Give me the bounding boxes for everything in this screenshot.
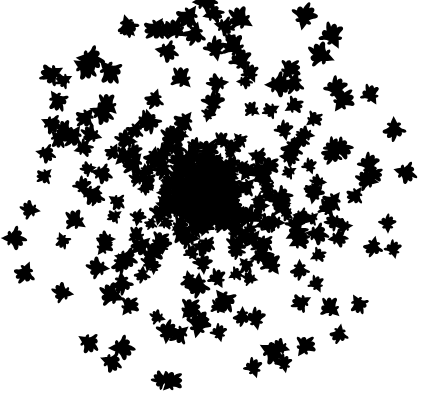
radial-cluster-illustration xyxy=(0,0,426,418)
artwork-canvas xyxy=(0,0,426,418)
